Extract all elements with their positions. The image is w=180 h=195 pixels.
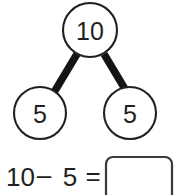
equation-subtrahend: 5 <box>63 162 77 192</box>
equation-minuend: 10 <box>6 162 35 192</box>
equation-minus-operator: – <box>37 160 52 190</box>
answer-box-input[interactable] <box>106 157 172 195</box>
number-bond-worksheet: 10 5 5 10 – 5 = <box>0 0 180 195</box>
equation-equals-sign: = <box>85 161 100 191</box>
line-connector-icon-left <box>53 54 77 94</box>
whole-circle-value: 10 <box>76 17 104 45</box>
part-circle-right-value: 5 <box>123 100 137 128</box>
part-circle-left-value: 5 <box>33 100 47 128</box>
number-bond-diagram: 10 5 5 10 – 5 = <box>0 0 180 195</box>
